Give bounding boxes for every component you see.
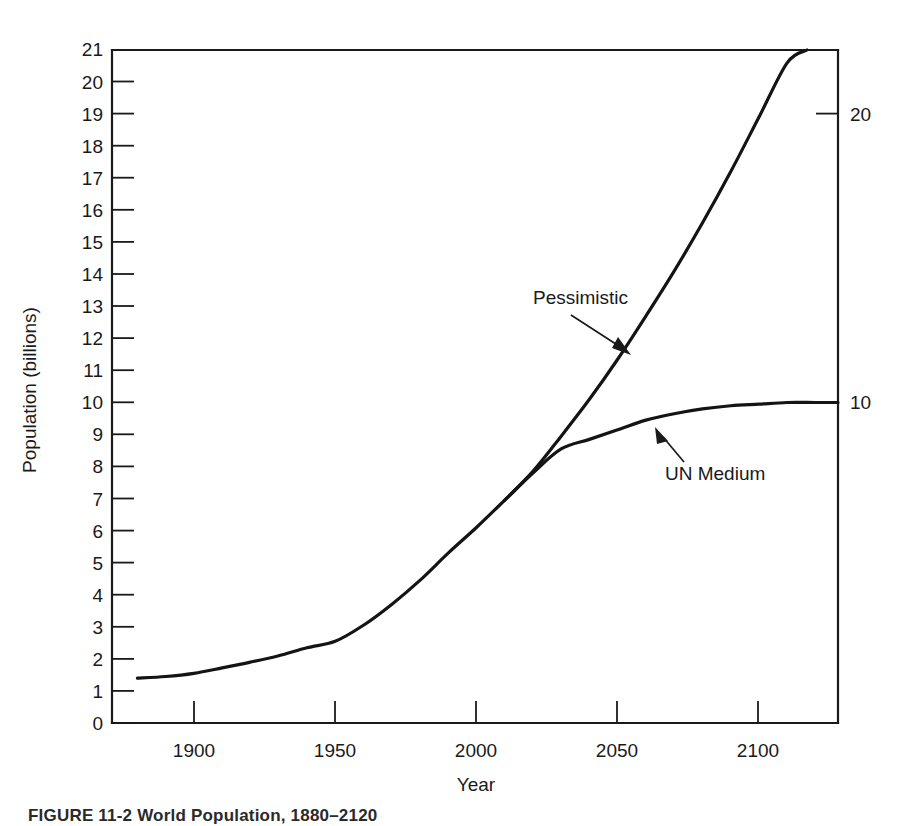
- y-tick-label-8: 8: [92, 456, 103, 477]
- y-tick-label-18: 18: [82, 136, 103, 157]
- y-right-tick-label-10: 10: [850, 392, 871, 413]
- annotation-arrowhead-un-medium: [655, 427, 668, 444]
- annotation-label-pessimistic: Pessimistic: [533, 287, 628, 308]
- x-tick-label-2100: 2100: [737, 740, 779, 761]
- y-right-tick-label-20: 20: [850, 104, 871, 125]
- y-tick-label-9: 9: [92, 424, 103, 445]
- y-tick-label-15: 15: [82, 232, 103, 253]
- y-tick-label-10: 10: [82, 392, 103, 413]
- y-tick-label-4: 4: [92, 585, 103, 606]
- plot-axes: [112, 50, 838, 723]
- y-tick-label-0: 0: [92, 713, 103, 734]
- annotation-label-un-medium: UN Medium: [665, 463, 765, 484]
- x-axis-ticks: [194, 701, 758, 723]
- x-tick-label-2050: 2050: [596, 740, 638, 761]
- x-axis-tick-labels: 1900 1950 2000 2050 2100: [173, 740, 779, 761]
- y-tick-label-14: 14: [82, 264, 104, 285]
- annotation-un-medium: UN Medium: [655, 427, 765, 484]
- annotation-leader-pessimistic: [571, 315, 622, 348]
- y-tick-label-7: 7: [92, 489, 103, 510]
- x-tick-label-1900: 1900: [173, 740, 215, 761]
- y-tick-label-13: 13: [82, 296, 103, 317]
- y-tick-label-3: 3: [92, 617, 103, 638]
- y-axis-left-ticks: [112, 82, 134, 724]
- y-tick-label-19: 19: [82, 104, 103, 125]
- data-series-group: [137, 50, 838, 678]
- y-tick-label-2: 2: [92, 649, 103, 670]
- y-tick-label-5: 5: [92, 553, 103, 574]
- series-line-un-medium: [137, 402, 838, 678]
- y-tick-label-1: 1: [92, 681, 103, 702]
- y-axis-left-tick-labels: 0 1 2 3 4 5 6 7 8 9 10 11 12 13 14 15 16…: [82, 39, 104, 734]
- y-tick-label-17: 17: [82, 168, 103, 189]
- y-tick-label-21: 21: [82, 39, 103, 60]
- figure-caption: FIGURE 11-2 World Population, 1880–2120: [28, 806, 378, 826]
- y-axis-title: Population (billions): [19, 307, 40, 473]
- x-tick-label-1950: 1950: [314, 740, 356, 761]
- y-tick-label-11: 11: [83, 360, 103, 381]
- y-tick-label-12: 12: [82, 328, 103, 349]
- y-tick-label-16: 16: [82, 200, 103, 221]
- y-axis-right-ticks: 10 20: [816, 104, 871, 414]
- y-tick-label-6: 6: [92, 521, 103, 542]
- y-tick-label-20: 20: [82, 72, 103, 93]
- x-axis-title: Year: [457, 774, 496, 795]
- annotation-pessimistic: Pessimistic: [533, 287, 631, 355]
- x-tick-label-2000: 2000: [455, 740, 497, 761]
